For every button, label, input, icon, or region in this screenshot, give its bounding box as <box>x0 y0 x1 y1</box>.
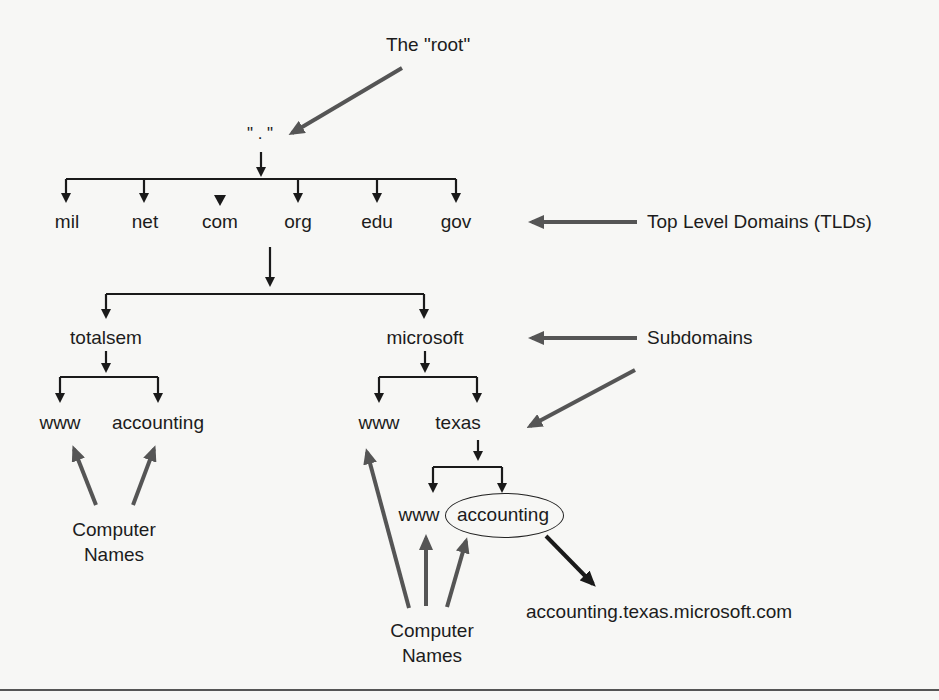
dns-hierarchy-diagram <box>0 0 939 700</box>
subdomains-annotation: Subdomains <box>647 327 753 349</box>
tld-gov: gov <box>441 211 472 233</box>
totalsem-accounting: accounting <box>112 412 204 434</box>
computer-names-label-right: Computer Names <box>390 618 473 668</box>
domain-microsoft: microsoft <box>386 327 463 349</box>
bottom-divider <box>0 689 939 691</box>
texas-accounting: accounting <box>457 504 549 526</box>
root-callout-label: The "root" <box>386 34 470 56</box>
tree-lines <box>60 152 502 488</box>
totalsem-www: www <box>39 412 80 434</box>
tld-edu: edu <box>361 211 393 233</box>
tld-com: com <box>202 211 238 233</box>
tld-mil: mil <box>55 211 79 233</box>
fqdn-label: accounting.texas.microsoft.com <box>526 601 792 623</box>
computer-names-label-left: Computer Names <box>72 517 155 567</box>
texas-www: www <box>398 504 439 526</box>
domain-totalsem: totalsem <box>70 327 142 349</box>
tld-org: org <box>284 211 311 233</box>
tld-net: net <box>132 211 158 233</box>
fqdn-arrow <box>546 536 593 584</box>
microsoft-texas: texas <box>435 412 480 434</box>
root-node: " . " <box>247 123 273 145</box>
tlds-annotation: Top Level Domains (TLDs) <box>647 211 872 233</box>
microsoft-www: www <box>358 412 399 434</box>
